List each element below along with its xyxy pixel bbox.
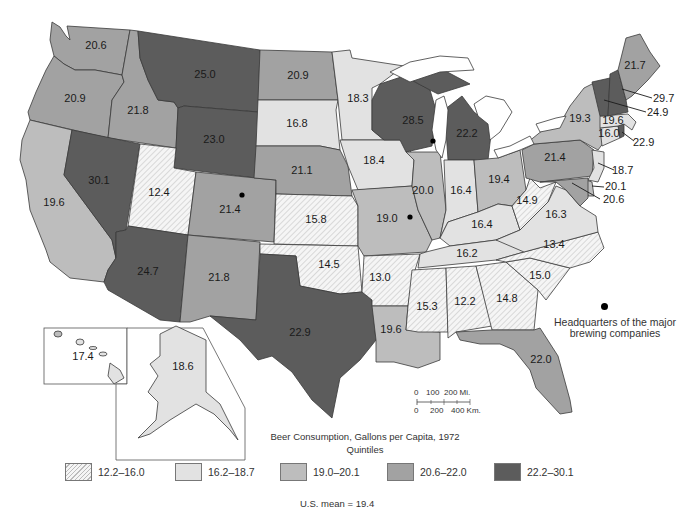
label-md: 20.6	[603, 193, 624, 205]
label-oh: 19.4	[488, 173, 509, 185]
label-de: 20.1	[605, 180, 626, 192]
label-ut: 12.4	[148, 186, 169, 198]
label-nj: 18.7	[612, 164, 633, 176]
legend-item-q1: 12.2–16.0	[65, 463, 145, 481]
label-ms: 15.3	[416, 300, 437, 312]
label-or: 20.9	[64, 92, 85, 104]
label-in: 16.4	[450, 184, 471, 196]
hq-legend-marker-icon	[601, 303, 608, 310]
brewery-hq-marker-co	[239, 192, 244, 197]
map-title: Beer Consumption, Gallons per Capita, 19…	[240, 430, 490, 443]
brewery-hq-marker-wi	[430, 138, 435, 143]
label-wa: 20.6	[85, 39, 106, 51]
label-ky: 16.4	[471, 218, 492, 230]
scale-km-0: 0	[414, 406, 418, 415]
label-wi: 28.5	[402, 114, 423, 126]
label-va: 16.3	[545, 208, 566, 220]
legend-item-q4: 20.6–22.0	[387, 463, 467, 481]
label-nv: 30.1	[88, 174, 109, 186]
label-ma: 19.6	[602, 114, 623, 126]
legend-swatch-q2	[175, 463, 202, 481]
legend-label-q1: 12.2–16.0	[98, 466, 145, 478]
label-wy: 23.0	[203, 133, 224, 145]
label-tn: 16.2	[456, 247, 477, 259]
legend-label-q2: 16.2–18.7	[208, 466, 255, 478]
map-title-block: Beer Consumption, Gallons per Capita, 19…	[240, 430, 490, 456]
label-nm: 21.8	[208, 271, 229, 283]
legend-swatch-q4	[387, 463, 414, 481]
label-ny: 19.3	[569, 112, 590, 124]
us-mean-label: U.S. mean = 19.4	[300, 498, 374, 509]
scale-mi-100: 100	[426, 388, 439, 397]
label-ak: 18.6	[172, 360, 193, 372]
scale-miles-labels: 0 100 200 Mi.	[414, 388, 484, 398]
scale-mi-200: 200 Mi.	[444, 388, 470, 397]
scale-mi-0: 0	[414, 388, 418, 397]
label-mt: 25.0	[194, 68, 215, 80]
label-ga: 14.8	[496, 292, 517, 304]
label-mn: 18.3	[347, 92, 368, 104]
scale-km-400: 400 Km.	[451, 406, 481, 415]
label-pa: 21.4	[544, 151, 565, 163]
label-sc: 15.0	[529, 269, 550, 281]
label-la: 19.6	[380, 323, 401, 335]
label-ct: 16.0	[598, 127, 619, 139]
label-fl: 22.0	[530, 353, 551, 365]
label-ri: 22.9	[633, 136, 654, 148]
label-ne: 21.1	[291, 164, 312, 176]
label-ia: 18.4	[363, 154, 384, 166]
label-mi: 22.2	[456, 127, 477, 139]
label-hi: 17.4	[72, 350, 93, 362]
label-az: 24.7	[137, 265, 158, 277]
legend-label-q3: 19.0–20.1	[313, 466, 360, 478]
hq-legend-label: Headquarters of the major brewing compan…	[550, 317, 680, 339]
legend-item-q5: 22.2–30.1	[494, 463, 574, 481]
map-subtitle: Quintiles	[240, 443, 490, 456]
label-sd: 16.8	[286, 117, 307, 129]
label-me: 21.7	[624, 59, 645, 71]
label-ok: 14.5	[318, 258, 339, 270]
legend-swatch-q5	[494, 463, 521, 481]
label-wv: 14.9	[516, 194, 537, 206]
label-nd: 20.9	[287, 69, 308, 81]
label-al: 12.2	[454, 295, 475, 307]
brewery-hq-marker-mo	[407, 214, 412, 219]
scale-km-labels: 0 200 400 Km.	[414, 406, 494, 416]
label-mo: 19.0	[376, 212, 397, 224]
legend-item-q3: 19.0–20.1	[280, 463, 360, 481]
legend-swatch-q1	[65, 463, 92, 481]
scale-bar	[417, 399, 470, 405]
leader-de	[592, 186, 604, 187]
label-nc: 13.4	[543, 238, 564, 250]
legend-swatch-q3	[280, 463, 307, 481]
quintile-legend: 12.2–16.0 16.2–18.7 19.0–20.1 20.6–22.0 …	[0, 463, 687, 485]
legend-label-q5: 22.2–30.1	[527, 466, 574, 478]
scale-km-200: 200	[430, 406, 443, 415]
label-il: 20.0	[412, 184, 433, 196]
label-tx: 22.9	[289, 326, 310, 338]
label-nh: 29.7	[653, 92, 674, 104]
label-co: 21.4	[219, 203, 240, 215]
state-fl[interactable]	[456, 328, 572, 414]
legend-item-q2: 16.2–18.7	[175, 463, 255, 481]
label-vt: 24.9	[647, 106, 668, 118]
label-ca: 19.6	[43, 196, 64, 208]
label-id: 21.8	[127, 104, 148, 116]
label-ar: 13.0	[369, 271, 390, 283]
label-ks: 15.8	[305, 213, 326, 225]
legend-label-q4: 20.6–22.0	[420, 466, 467, 478]
